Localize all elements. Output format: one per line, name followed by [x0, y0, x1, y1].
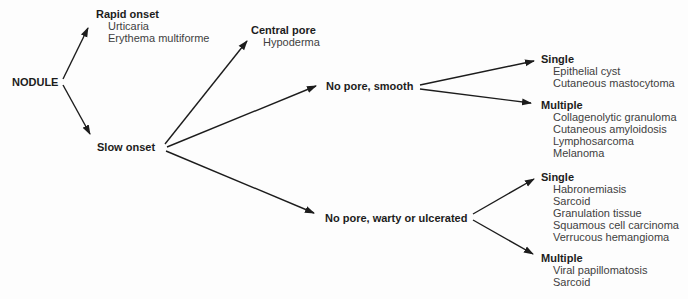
node-warty-single: Single — [541, 171, 679, 183]
group-central-pore: Central pore Hypoderma — [251, 24, 320, 48]
arrow-slow-to-no-pore-warty — [166, 151, 314, 213]
diagnosis-item: Cutaneous amyloidosis — [541, 123, 677, 135]
diagnosis-item: Urticaria — [96, 20, 209, 32]
diagnosis-item: Erythema multiforme — [96, 32, 209, 44]
group-rapid-onset: Rapid onset Urticaria Erythema multiform… — [96, 8, 209, 44]
diagnosis-item: Sarcoid — [541, 195, 679, 207]
diagnosis-item: Lymphosarcoma — [541, 135, 677, 147]
diagnosis-item: Granulation tissue — [541, 207, 679, 219]
group-warty-multiple: Multiple Viral papillomatosis Sarcoid — [541, 252, 648, 288]
node-no-pore-warty: No pore, warty or ulcerated — [325, 212, 467, 224]
arrow-smooth-to-single — [420, 61, 534, 85]
node-nodule: NODULE — [12, 76, 58, 88]
diagnosis-item: Viral papillomatosis — [541, 264, 648, 276]
arrow-smooth-to-multiple — [420, 89, 531, 103]
node-smooth-multiple: Multiple — [541, 99, 677, 111]
diagnosis-item: Sarcoid — [541, 276, 648, 288]
diagnosis-item: Melanoma — [541, 147, 677, 159]
arrow-slow-to-central-pore — [165, 41, 247, 144]
group-warty-single: Single Habronemiasis Sarcoid Granulation… — [541, 171, 679, 243]
group-smooth-single: Single Epithelial cyst Cutaneous mastocy… — [541, 53, 675, 89]
node-smooth-single: Single — [541, 53, 675, 65]
node-no-pore-smooth: No pore, smooth — [326, 80, 413, 92]
diagnosis-item: Cutaneous mastocytoma — [541, 77, 675, 89]
arrow-warty-to-multiple — [473, 220, 533, 254]
node-central-pore: Central pore — [251, 24, 320, 36]
arrow-nodule-to-rapid-onset — [63, 28, 88, 79]
decision-tree-diagram: NODULE Rapid onset Urticaria Erythema mu… — [0, 0, 688, 299]
node-warty-multiple: Multiple — [541, 252, 648, 264]
diagnosis-item: Hypoderma — [251, 36, 320, 48]
node-slow-onset: Slow onset — [97, 141, 155, 153]
arrow-nodule-to-slow-onset — [63, 85, 90, 134]
arrow-slow-to-no-pore-smooth — [167, 86, 316, 147]
diagnosis-item: Habronemiasis — [541, 183, 679, 195]
node-rapid-onset: Rapid onset — [96, 8, 209, 20]
diagnosis-item: Verrucous hemangioma — [541, 231, 679, 243]
arrow-warty-to-single — [473, 179, 534, 214]
group-smooth-multiple: Multiple Collagenolytic granuloma Cutane… — [541, 99, 677, 159]
diagnosis-item: Collagenolytic granuloma — [541, 111, 677, 123]
diagnosis-item: Squamous cell carcinoma — [541, 219, 679, 231]
diagnosis-item: Epithelial cyst — [541, 65, 675, 77]
